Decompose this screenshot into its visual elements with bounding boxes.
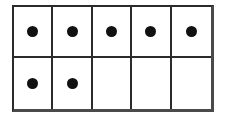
counter-dot xyxy=(186,26,197,37)
counter-dot xyxy=(67,26,78,37)
counter-dot xyxy=(145,26,156,37)
ten-frame-cell-r2c1[interactable] xyxy=(14,58,53,109)
ten-frame-cell-r2c5[interactable] xyxy=(172,58,211,109)
counter-dot xyxy=(106,26,117,37)
counter-dot xyxy=(27,26,38,37)
ten-frame-cell-r1c2[interactable] xyxy=(53,7,92,58)
figure-canvas xyxy=(0,0,226,119)
ten-frame-cell-r2c2[interactable] xyxy=(53,58,92,109)
ten-frame-cell-r1c3[interactable] xyxy=(93,7,132,58)
ten-frame-grid xyxy=(12,5,214,112)
ten-frame-cell-r1c1[interactable] xyxy=(14,7,53,58)
counter-dot xyxy=(27,78,38,89)
counter-dot xyxy=(67,78,78,89)
ten-frame-cell-r2c4[interactable] xyxy=(132,58,171,109)
ten-frame-cell-r1c5[interactable] xyxy=(172,7,211,58)
ten-frame-cell-r2c3[interactable] xyxy=(93,58,132,109)
ten-frame-cell-r1c4[interactable] xyxy=(132,7,171,58)
